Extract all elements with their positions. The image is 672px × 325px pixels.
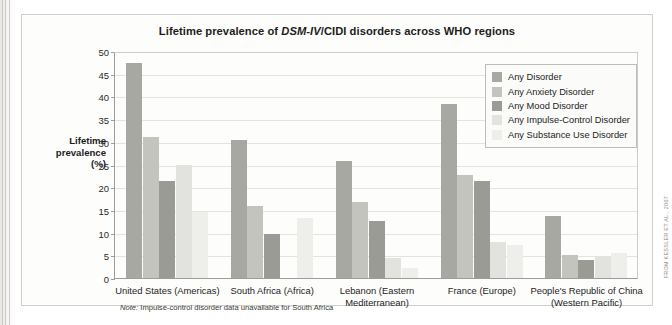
bar [474,181,490,278]
legend-item: Any Impulse-Control Disorder [492,113,630,127]
legend-item-label: Any Mood Disorder [508,101,588,111]
x-axis-category-label: People's Republic of China [522,285,651,297]
legend-item-label: Any Impulse-Control Disorder [508,115,630,125]
y-axis-tick-label: 5 [104,251,109,262]
bar [402,268,418,278]
legend-swatch-icon [492,87,502,97]
bar [385,258,401,278]
bar [441,104,457,278]
bar [545,216,561,278]
legend-item: Any Disorder [492,70,630,84]
chart-title-prefix: Lifetime prevalence of [159,25,281,37]
y-axis-tick-label: 0 [104,274,109,285]
bar [562,255,578,278]
chart-title-italic: DSM-IV [281,25,320,37]
y-axis-label-line2: prevalence [40,147,106,159]
bar-group: Lebanon (EasternMediterranean) [325,52,430,278]
chart-note: Note: Impulse-control disorder data unav… [120,303,333,312]
legend-item-label: Any Disorder [508,72,562,82]
bar-group: South Africa (Africa) [220,52,325,278]
page-edge-decoration [0,0,14,325]
legend-item: Any Mood Disorder [492,99,630,113]
bar [126,63,142,278]
legend-swatch-icon [492,72,502,82]
bar [159,181,175,278]
bar [143,137,159,278]
bar [457,175,473,278]
legend-item: Any Anxiety Disorder [492,84,630,98]
y-axis-label-line1: Lifetime [40,135,106,147]
y-axis-tick-label: 50 [98,47,109,58]
bar [352,202,368,278]
x-axis-category: People's Republic of China(Western Pacif… [522,285,651,308]
y-axis-tick-label: 15 [98,205,109,216]
y-axis-tick-label: 45 [98,69,109,80]
y-axis-tick-label: 30 [98,137,109,148]
bar-group: United States (Americas) [115,52,220,278]
figure-page: Lifetime prevalence of DSM-IV/CIDI disor… [0,0,672,325]
y-axis-tick-label: 35 [98,115,109,126]
chart-container: Lifetime prevalence of DSM-IV/CIDI disor… [21,14,653,306]
y-axis-tick-label: 40 [98,92,109,103]
chart-title: Lifetime prevalence of DSM-IV/CIDI disor… [22,25,652,37]
bar [176,165,192,279]
bar [336,161,352,278]
bar [192,212,208,278]
legend-swatch-icon [492,130,502,140]
legend-swatch-icon [492,101,502,111]
bar [247,206,263,278]
chart-title-suffix: /CIDI disorders across WHO regions [321,25,515,37]
y-axis-tick-mark [111,279,115,280]
bar [595,257,611,278]
y-axis-label-line3: (%) [40,158,106,170]
y-axis-tick-label: 25 [98,160,109,171]
source-credit: FROM KESSLER ET AL., 2007 [663,196,669,278]
legend-item-label: Any Substance Use Disorder [508,130,627,140]
bar [578,260,594,278]
y-axis-tick-label: 10 [98,228,109,239]
bar [490,242,506,278]
bar [264,234,280,278]
bar [611,253,627,278]
legend-swatch-icon [492,115,502,125]
bar [507,245,523,278]
note-label: Note: [120,303,138,312]
bar [231,140,247,278]
x-axis-category-label-line2: (Western Pacific) [522,297,651,309]
y-axis-label: Lifetime prevalence (%) [40,135,106,170]
legend-item-label: Any Anxiety Disorder [508,87,594,97]
bar [297,218,313,278]
legend: Any DisorderAny Anxiety DisorderAny Mood… [485,64,637,148]
bar [369,221,385,278]
legend-item: Any Substance Use Disorder [492,128,630,142]
y-axis-tick-label: 20 [98,183,109,194]
note-text: Impulse-control disorder data unavailabl… [138,303,333,312]
